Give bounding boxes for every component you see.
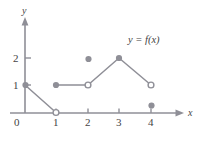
point-2-1-open-marker	[85, 82, 91, 88]
axes-group	[10, 17, 184, 116]
point-1-1-closed-marker	[53, 82, 59, 88]
point-2-2-closed-marker	[85, 56, 91, 62]
point-4-1-open-marker	[148, 82, 154, 88]
chart-figure: 0 1 2 3 4 1 2 y x y = f(x)	[0, 0, 205, 143]
x-tick-label-1: 1	[53, 117, 59, 128]
y-tick-label-1: 1	[13, 80, 19, 91]
y-tick-marks	[25, 58, 31, 85]
x-tick-label-0: 0	[14, 117, 20, 128]
point-1-0-open-marker	[53, 110, 59, 116]
segment-4-line	[119, 58, 151, 85]
x-tick-label-3: 3	[116, 117, 122, 128]
x-axis-label: x	[188, 108, 192, 118]
function-label: y = f(x)	[128, 35, 160, 46]
y-axis-arrow-icon	[22, 17, 29, 26]
segment-1-line	[25, 85, 56, 113]
y-axis-label: y	[22, 6, 26, 16]
x-axis-arrow-icon	[176, 110, 185, 117]
point-0-1-closed-marker	[22, 82, 28, 88]
point-4-half-closed-marker	[148, 102, 154, 108]
data-points-group	[22, 55, 154, 116]
segment-3-line	[88, 58, 119, 85]
x-tick-label-2: 2	[85, 117, 91, 128]
point-3-2-closed-marker	[116, 55, 122, 61]
graph-canvas	[0, 0, 205, 143]
x-tick-label-4: 4	[148, 117, 154, 128]
y-tick-label-2: 2	[13, 53, 19, 64]
